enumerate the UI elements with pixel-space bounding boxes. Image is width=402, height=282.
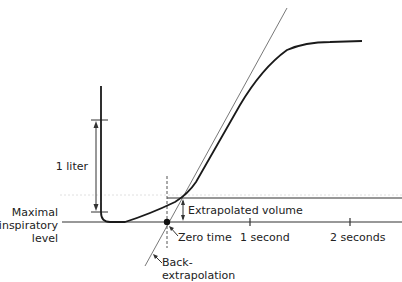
one-second-label: 1 second (240, 231, 290, 244)
extrapolated-arrow-down-icon (181, 215, 185, 221)
extrapolated-volume-label: Extrapolated volume (188, 204, 303, 217)
scale-label: 1 liter (56, 160, 89, 173)
scale-arrow-down-icon (94, 204, 99, 211)
zero-time-point (164, 219, 170, 225)
spirogram-diagram: 1 liter Maximal inspiratory level Extrap… (0, 0, 402, 282)
two-seconds-label: 2 seconds (330, 231, 386, 244)
back-extrapolation-label-2: extrapolation (162, 269, 235, 282)
back-extrapolation-line (145, 8, 287, 266)
baseline-label-3: level (32, 232, 58, 245)
back-extrapolation-label-1: Back- (162, 256, 193, 269)
scale-arrow-up-icon (94, 121, 99, 128)
baseline-label-2: inspiratory (0, 219, 58, 232)
zero-time-label: Zero time (178, 231, 232, 244)
baseline-label-1: Maximal (12, 206, 58, 219)
